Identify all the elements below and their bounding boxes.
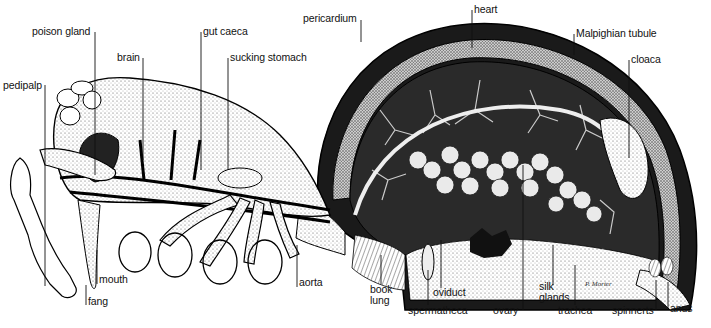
label-heart: heart (474, 4, 497, 15)
label-silk-glands: silk glands (539, 281, 569, 303)
label-poison-gland: poison gland (32, 26, 90, 37)
label-pericardium: pericardium (303, 13, 357, 24)
label-sucking-stomach: sucking stomach (230, 52, 307, 63)
label-fang: fang (88, 296, 108, 307)
spider-anatomy-diagram: poison gland gut caeca pericardium heart… (0, 0, 711, 328)
label-malpighian-tubule: Malpighian tubule (576, 28, 657, 39)
label-spermatheca: spermatheca (408, 305, 468, 316)
label-mouth: mouth (99, 274, 128, 285)
label-spinnerets: spinnerts (612, 305, 654, 316)
label-gut-caeca: gut caeca (203, 26, 248, 37)
label-trachea: trachea (558, 305, 592, 316)
label-brain: brain (117, 52, 140, 63)
label-oviduct: oviduct (433, 287, 466, 298)
label-anus: anus (670, 303, 692, 314)
label-book-lung: book lung (370, 284, 392, 306)
artist-signature: P. Morter (585, 280, 612, 288)
label-pedipalp: pedipalp (3, 80, 42, 91)
label-cloaca: cloaca (631, 54, 661, 65)
label-aorta: aorta (299, 277, 322, 288)
abdomen (318, 24, 697, 310)
label-ovary: ovary (493, 305, 518, 316)
